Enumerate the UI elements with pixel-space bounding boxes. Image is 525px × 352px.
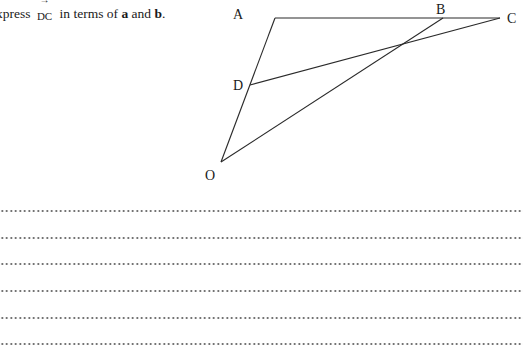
label-c: C [507, 11, 516, 26]
answer-line-5[interactable] [0, 317, 523, 319]
answer-line-3[interactable] [0, 263, 523, 265]
segment-dc [250, 18, 500, 85]
answer-line-6[interactable] [0, 343, 523, 345]
answer-line-4[interactable] [0, 290, 523, 292]
answer-line-2[interactable] [0, 237, 523, 239]
answer-line-1[interactable] [0, 210, 523, 212]
label-b: B [436, 2, 445, 17]
label-a: A [233, 7, 244, 22]
geometry-diagram: A B C D O [0, 0, 525, 190]
label-o: O [205, 168, 215, 183]
segment-ob [221, 18, 443, 162]
label-d: D [233, 78, 243, 93]
segment-ao [221, 18, 275, 162]
